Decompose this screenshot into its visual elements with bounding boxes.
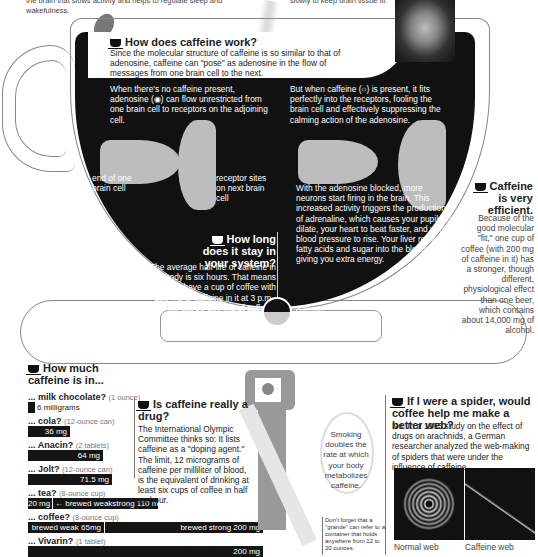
bar-coffee-weak: brewed weak 65mg [28,522,104,533]
athlete-head [262,383,274,395]
how-works-intro: Since the molecular structure of caffein… [110,48,360,79]
bar-milk-chocolate [28,402,35,413]
coffee-cup-icon [138,401,149,409]
coffee-cup-icon [28,365,39,373]
top-text-fragment-left: the brain that slows activity and helps … [26,0,256,16]
portrait-image [395,0,455,62]
grande-divider [322,517,323,555]
spider-divider [385,395,386,555]
coffee-cup-icon [392,398,403,406]
spider-text: No. In a 1965 study on the effect of dru… [392,421,537,472]
coffee-cup-icon [475,183,486,191]
efficient-heading: Caffeine is very efficient. [465,180,533,216]
label-receptor-sites: receptor sites on next brain cell [216,173,276,204]
bar-vivarin: 200 mg [28,546,263,557]
bar-cola: 36 mg [28,426,70,437]
bar-coffee-strong: brewed strong 200 mg [105,522,263,533]
bar-tea-weak: 20 mg [28,498,52,509]
gauge-200mg-label: 200 mg [295,304,323,314]
drug-heading: Is caffeine really a drug? [138,398,248,422]
item-vivarin-label: ... Vivarin? (1 tablet) [28,536,263,546]
with-caffeine-text: But when caffeine (○) is present, it fit… [290,84,450,125]
bar-jolt: 71.5 mg [28,474,112,485]
drug-divider [134,398,135,478]
label-end-of-cell: end of one brain cell [92,173,142,193]
item-coffee-label: ... coffee? (8-ounce cup) [28,512,263,522]
grande-note: Don't forget that a "grande" can refer t… [325,517,385,552]
brain-cell-right-diagram [298,140,378,184]
caffeine-web-image [465,468,535,540]
how-much-heading: How much caffeine is in... [28,362,118,386]
efficient-text: Because of the good molecular "fit," one… [460,213,534,335]
smoking-text: Smoking doubles the rate at which your b… [322,430,370,491]
bar-anacin: 64 mg [28,450,103,461]
no-caffeine-text: When there's no caffeine present, adenos… [110,84,275,125]
normal-web-image [394,468,464,540]
receptor-cell-left-diagram [178,120,216,210]
cup-handle-inner-outline [15,60,66,157]
half-life-gauge [262,297,292,327]
caffeine-web-caption: Caffeine web [465,542,514,552]
coffee-cup-icon [110,39,121,47]
gauge-100mg-label: 100 mg [231,304,259,314]
drug-text: The International Olympic Committee thin… [138,424,254,506]
coffee-cup-icon [212,236,223,244]
normal-web-caption: Normal web [394,542,439,552]
adenosine-blocked-text: With the adenosine blocked, more neurons… [296,183,454,265]
how-works-heading: How does caffeine work? [110,36,257,48]
